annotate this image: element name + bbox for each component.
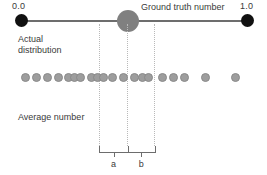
segment-label-b: b (139, 159, 144, 169)
distribution-dot (21, 73, 30, 82)
segment-tick-a (114, 152, 115, 157)
distribution-dot (108, 73, 117, 82)
distribution-dot (43, 73, 52, 82)
distribution-dot (32, 73, 41, 82)
axis-min-label: 0.0 (12, 1, 25, 11)
ground-truth-label: Ground truth number (141, 2, 225, 12)
number-line-diagram: 0.0 1.0 Ground truth number Actual distr… (0, 0, 267, 175)
axis-endpoint-max (241, 14, 254, 27)
distribution-dot (158, 73, 167, 82)
guide-line-left (99, 24, 101, 146)
guide-line-middle (127, 24, 129, 146)
distribution-dot (144, 73, 153, 82)
average-number-label: Average number (18, 112, 84, 123)
distribution-dot (54, 73, 63, 82)
actual-distribution-label: Actual distribution (18, 34, 62, 56)
distribution-dot (201, 73, 210, 82)
segment-tick-b (141, 152, 142, 157)
distribution-dot (99, 73, 108, 82)
segment-label-a: a (111, 159, 116, 169)
bracket-arm-middle (128, 146, 129, 153)
bracket-arm-left (99, 146, 100, 153)
distribution-dot (231, 73, 240, 82)
guide-line-right (154, 24, 156, 146)
distribution-dot (180, 73, 189, 82)
axis-max-label: 1.0 (240, 1, 253, 11)
distribution-dot (119, 73, 128, 82)
axis-endpoint-min (15, 14, 28, 27)
distribution-dot (76, 73, 85, 82)
bracket-arm-right (155, 146, 156, 153)
distribution-dot (169, 73, 178, 82)
